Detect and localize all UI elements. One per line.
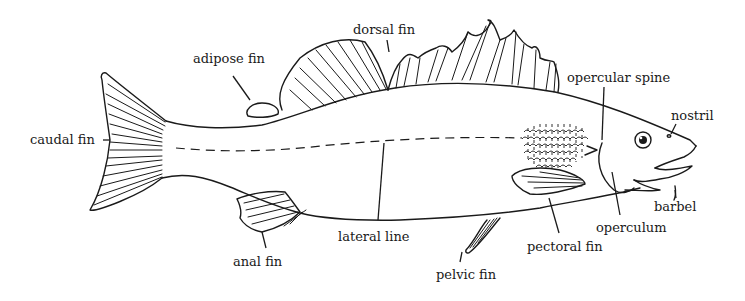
pectoral-fin [512,168,585,194]
label-lateral-line: lateral line [338,229,410,244]
label-caudal-fin: caudal fin [30,132,95,147]
label-anal-fin: anal fin [233,254,283,269]
label-operculum: operculum [596,220,667,235]
label-adipose-fin: adipose fin [193,51,266,66]
fish-anatomy-diagram: dorsal fin adipose fin caudal fin opercu… [0,0,745,301]
label-dorsal-fin: dorsal fin [353,22,416,37]
soft-dorsal-fin [280,40,388,110]
caudal-fin [90,73,166,210]
label-barbel: barbel [654,199,696,214]
scales-patch [522,124,588,168]
lateral-line [176,137,522,150]
pelvic-fin [466,218,500,253]
label-opercular-spine: opercular spine [567,70,670,85]
label-pectoral-fin: pectoral fin [527,239,603,254]
adipose-fin [247,103,278,117]
label-nostril: nostril [671,108,714,123]
label-pelvic-fin: pelvic fin [436,267,497,282]
fish-body [162,83,696,220]
